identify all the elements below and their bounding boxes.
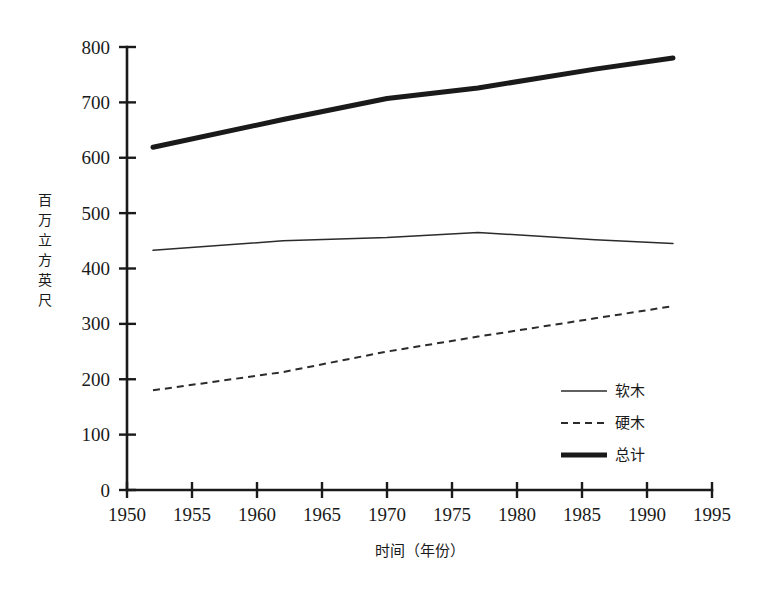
y-tick-label: 500 [82,203,111,224]
y-tick-label: 600 [82,147,111,168]
x-tick-label: 1965 [303,504,341,525]
chart-canvas: 0100200300400500600700800 19501955196019… [0,0,778,603]
legend-label-softwood: 软木 [615,382,645,399]
y-tick-label: 800 [82,37,111,58]
y-axis-title-char: 尺 [38,292,52,308]
x-tick-label: 1960 [238,504,276,525]
y-axis-tick-labels: 0100200300400500600700800 [82,37,111,501]
x-tick-label: 1955 [173,504,211,525]
y-axis-title-char: 立 [38,232,52,248]
y-tick-label: 0 [101,480,111,501]
y-axis-title-char: 方 [38,252,52,268]
x-tick-label: 1990 [628,504,666,525]
y-axis-title-char: 万 [38,212,52,228]
y-axis-title-char: 百 [38,192,52,208]
y-tick-label: 300 [82,313,111,334]
legend-label-total: 总计 [615,446,645,463]
x-tick-label: 1970 [368,504,406,525]
x-tick-label: 1950 [108,504,146,525]
y-axis-title-char: 英 [38,272,52,288]
x-axis-title: 时间（年份） [375,542,465,559]
y-tick-label: 700 [82,92,111,113]
legend-label-hardwood: 硬木 [615,414,645,431]
x-tick-label: 1985 [563,504,601,525]
line-chart: 0100200300400500600700800 19501955196019… [0,0,778,603]
y-tick-label: 400 [82,258,111,279]
y-tick-label: 200 [82,369,111,390]
x-tick-label: 1995 [693,504,731,525]
x-tick-label: 1975 [433,504,471,525]
x-tick-label: 1980 [498,504,536,525]
y-tick-label: 100 [82,424,111,445]
